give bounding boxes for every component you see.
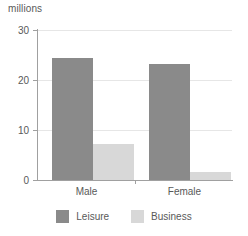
gridline-30 xyxy=(38,30,232,31)
y-axis-unit-label: millions xyxy=(8,3,42,14)
bar-male-business xyxy=(93,144,134,181)
legend-swatch-leisure-icon xyxy=(56,210,69,223)
legend-label-leisure: Leisure xyxy=(76,211,109,222)
x-axis-category-female: Female xyxy=(136,186,233,197)
y-tick-label-20: 20 xyxy=(18,75,29,86)
y-tick-mark-0 xyxy=(33,180,38,181)
legend-swatch-business-icon xyxy=(131,210,144,223)
legend: Leisure Business xyxy=(0,210,248,223)
plot-area xyxy=(38,30,232,180)
legend-label-business: Business xyxy=(151,211,192,222)
bar-female-business xyxy=(190,172,231,180)
bar-chart: millions 0 10 20 30 Male Female Leisure xyxy=(0,0,248,236)
bar-female-leisure xyxy=(149,64,190,181)
bar-male-leisure xyxy=(52,58,93,181)
y-tick-label-10: 10 xyxy=(18,125,29,136)
legend-item-leisure: Leisure xyxy=(56,210,109,223)
x-axis-category-male: Male xyxy=(38,186,135,197)
legend-item-business: Business xyxy=(131,210,192,223)
x-axis-group-separator-tick xyxy=(135,180,136,184)
y-tick-label-30: 30 xyxy=(18,25,29,36)
y-tick-label-0: 0 xyxy=(23,175,29,186)
